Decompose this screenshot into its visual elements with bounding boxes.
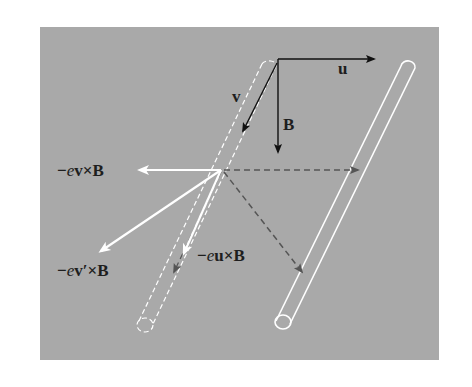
label-force-v: −ev×B	[57, 161, 104, 180]
label-B: B	[283, 115, 294, 134]
label-force-vprime: −ev′×B	[57, 261, 109, 280]
diagram-panel	[40, 27, 439, 360]
label-u: u	[338, 59, 347, 78]
label-v: v	[232, 87, 241, 106]
physics-diagram: u v B −ev×B −ev′×B −eu×B	[0, 0, 472, 387]
label-force-u: −eu×B	[197, 246, 245, 265]
